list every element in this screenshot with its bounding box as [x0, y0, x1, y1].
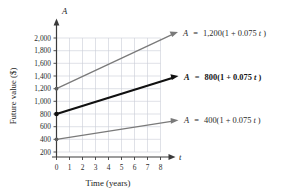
x-axis-symbol-t: t [179, 152, 182, 162]
series-1200-annotation-close: ) [263, 29, 266, 38]
series-annotations: A = 1,200(1 + 0.075 t ) A = 800(1 + 0.07… [182, 29, 266, 125]
x-tick-label-3: 3 [94, 163, 98, 172]
y-tick-label-1000: 1,000 [34, 97, 51, 106]
y-tick-label-1200: 1,200 [34, 84, 51, 93]
x-tick-label-4: 4 [107, 163, 111, 172]
series-1200-start-dot [55, 87, 59, 91]
series-400-annotation-close: ) [258, 116, 261, 125]
y-tick-label-1800: 1,800 [34, 46, 51, 55]
y-axis-symbol-A: A [61, 6, 68, 16]
x-tick-label-5: 5 [120, 163, 124, 172]
x-tick-label-0: 0 [55, 163, 59, 172]
series-800-annotation-var: t [254, 73, 257, 82]
y-tick-labels: 2,000 1,800 1,600 1,400 1,200 1,000 800 … [34, 34, 51, 157]
series-400-start-dot [55, 137, 59, 141]
series-800-annotation-A: A [183, 73, 190, 82]
x-tick-label-1: 1 [68, 163, 72, 172]
y-tick-label-2000: 2,000 [34, 34, 51, 43]
series-400-annotation: A = 400(1 + 0.075 t ) [183, 116, 261, 125]
y-tick-label-400: 400 [40, 135, 51, 144]
x-tick-label-2: 2 [81, 163, 85, 172]
series-400-path [57, 121, 174, 139]
future-value-chart-figure: 2,000 1,800 1,600 1,400 1,200 1,000 800 … [0, 0, 297, 193]
series-1200-path [57, 34, 174, 88]
axes [52, 19, 176, 160]
grid-lines [57, 38, 161, 152]
y-tick-label-600: 600 [40, 122, 51, 131]
series-400-arrowhead [171, 118, 179, 124]
x-tick-labels: 0 1 2 3 4 5 6 7 8 [55, 163, 163, 172]
x-tick-label-7: 7 [146, 163, 150, 172]
chart-svg: 2,000 1,800 1,600 1,400 1,200 1,000 800 … [0, 0, 297, 193]
y-tick-label-200: 200 [40, 148, 51, 157]
series-1200-annotation-equals: = [193, 29, 198, 38]
x-tick-label-8: 8 [159, 163, 163, 172]
series-800-annotation: A = 800(1 + 0.075 t ) [183, 73, 261, 82]
x-tick-label-6: 6 [133, 163, 137, 172]
series-1200-annotation: A = 1,200(1 + 0.075 t ) [182, 29, 266, 38]
series-400-annotation-equals: = [194, 116, 199, 125]
x-axis-title: Time (years) [86, 178, 131, 188]
series-800-path [57, 78, 174, 114]
series-800-annotation-close: ) [258, 73, 261, 82]
y-axis-title: Future value ($) [8, 68, 18, 125]
series-800-annotation-equals: = [195, 73, 200, 82]
x-axis-arrowhead [169, 154, 176, 160]
series-1200-annotation-var: t [259, 29, 262, 38]
series-1200-annotation-A: A [182, 29, 189, 38]
series-800-start-dot [54, 112, 59, 117]
series-400-annotation-expr: 400(1 + 0.075 [204, 116, 251, 125]
series-1200-arrowhead [170, 32, 178, 37]
series-1200-annotation-expr: 1,200(1 + 0.075 [203, 29, 257, 38]
series-400-annotation-var: t [253, 116, 256, 125]
series-800-annotation-expr: 800(1 + 0.075 [205, 73, 252, 82]
y-axis-arrowhead [54, 19, 60, 26]
series-400-annotation-A: A [183, 116, 190, 125]
series-line-400 [55, 118, 179, 141]
y-tick-label-800: 800 [40, 110, 51, 119]
y-tick-label-1400: 1,400 [34, 72, 51, 81]
y-tick-label-1600: 1,600 [34, 59, 51, 68]
